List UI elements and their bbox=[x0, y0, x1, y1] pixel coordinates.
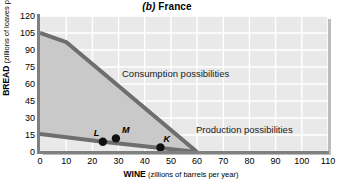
x-tick-label: 80 bbox=[239, 157, 259, 166]
y-tick-label: 15 bbox=[13, 131, 35, 140]
x-axis-spine bbox=[37, 151, 329, 154]
point-label-M: M bbox=[122, 125, 130, 135]
data-point-M bbox=[112, 134, 120, 142]
x-tick-label: 10 bbox=[56, 157, 76, 166]
x-tick-label: 20 bbox=[82, 157, 102, 166]
annotation-consumption-possibilities: Consumption possibilities bbox=[122, 68, 229, 79]
x-tick-label: 110 bbox=[318, 157, 338, 166]
y-axis-label-strong: BREAD bbox=[1, 66, 11, 96]
point-label-L: L bbox=[94, 128, 100, 138]
y-axis-label: BREAD (zillions of loaves per year) bbox=[1, 0, 15, 99]
x-tick-label: 90 bbox=[266, 157, 286, 166]
y-tick-label: 0 bbox=[13, 148, 35, 157]
x-tick-label: 0 bbox=[30, 157, 50, 166]
y-tick-label: 30 bbox=[13, 114, 35, 123]
y-tick-label: 60 bbox=[13, 80, 35, 89]
x-axis-label: WINE (zillions of barrels per year) bbox=[36, 169, 326, 179]
chart-title: (b) France bbox=[0, 1, 334, 12]
point-label-K: K bbox=[163, 134, 170, 144]
annotation-production-possibilities: Production possibilities bbox=[196, 124, 293, 135]
y-tick-label: 45 bbox=[13, 97, 35, 106]
panel-letter: (b) bbox=[142, 1, 155, 12]
data-point-L bbox=[99, 138, 107, 146]
x-axis-label-strong: WINE bbox=[124, 169, 146, 179]
y-tick-label: 120 bbox=[13, 12, 35, 21]
y-axis-label-weak: (zillions of loaves per year) bbox=[2, 0, 11, 63]
x-tick-label: 60 bbox=[187, 157, 207, 166]
y-tick-label: 105 bbox=[13, 29, 35, 38]
panel-name: France bbox=[158, 1, 191, 12]
y-axis-spine bbox=[37, 14, 40, 154]
x-tick-label: 40 bbox=[135, 157, 155, 166]
x-tick-label: 70 bbox=[213, 157, 233, 166]
y-tick-label: 75 bbox=[13, 63, 35, 72]
x-tick-label: 50 bbox=[161, 157, 181, 166]
x-axis-label-weak: (zillions of barrels per year) bbox=[148, 170, 238, 179]
x-tick-label: 100 bbox=[292, 157, 312, 166]
x-tick-label: 30 bbox=[109, 157, 129, 166]
y-tick-label: 90 bbox=[13, 46, 35, 55]
